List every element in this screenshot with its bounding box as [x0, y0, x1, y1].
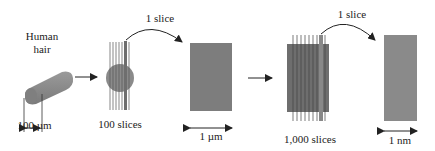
- curved-arrow-2: [321, 24, 375, 40]
- hair-label-line1: Human: [22, 30, 62, 42]
- arrow-1-label: 1 slice: [140, 12, 180, 24]
- nano-dimension: 1 nm: [380, 134, 420, 146]
- micron-dimension: 1 µm: [191, 130, 231, 142]
- arrow-2-label: 1 slice: [332, 8, 372, 20]
- thousand-slices-label: 1,000 slices: [280, 133, 340, 145]
- hair-dimension: 100 µm: [12, 119, 57, 131]
- hair-cross-section: [106, 41, 134, 110]
- micron-slice-rect: [190, 43, 232, 111]
- diagram-canvas: [0, 0, 435, 151]
- nano-slice-rect: [384, 35, 417, 121]
- hundred-slices-label: 100 slices: [95, 118, 145, 130]
- micron-slices-block: [287, 35, 329, 121]
- hair-label-line2: hair: [22, 43, 62, 55]
- curved-arrow-1: [126, 29, 182, 42]
